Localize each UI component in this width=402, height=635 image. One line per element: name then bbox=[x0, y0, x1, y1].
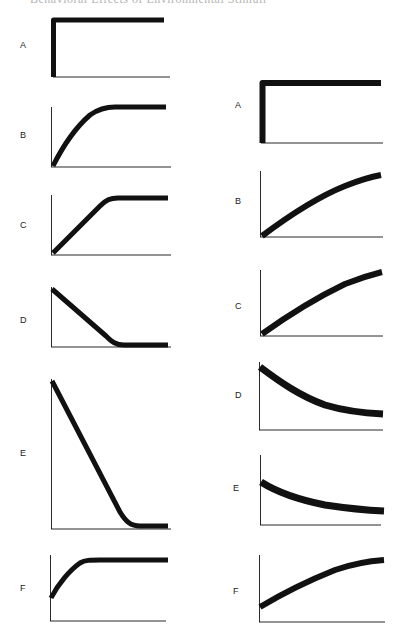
panel-label: D bbox=[20, 315, 27, 325]
panel-label: F bbox=[233, 586, 239, 596]
curve bbox=[262, 175, 381, 236]
curve bbox=[52, 381, 168, 526]
panel-label: F bbox=[20, 583, 26, 593]
curve bbox=[262, 272, 382, 334]
panel-left-e: E bbox=[20, 379, 171, 529]
figure-panels: A B C D E bbox=[0, 0, 402, 635]
curve bbox=[260, 560, 384, 607]
curve bbox=[54, 20, 165, 77]
curve bbox=[53, 198, 168, 253]
curve bbox=[260, 367, 383, 414]
panel-left-a: A bbox=[20, 20, 170, 77]
panel-label: C bbox=[235, 301, 242, 311]
panel-right-e: E bbox=[233, 455, 384, 525]
panel-left-b: B bbox=[20, 107, 171, 167]
panel-right-c: C bbox=[235, 270, 383, 336]
curve bbox=[263, 83, 382, 143]
panel-left-d: D bbox=[20, 287, 171, 347]
panel-right-a: A bbox=[235, 83, 383, 143]
curve bbox=[52, 289, 168, 345]
panel-right-f: F bbox=[233, 555, 385, 622]
panel-label: E bbox=[233, 483, 239, 493]
panel-label: E bbox=[20, 448, 26, 458]
panel-label: B bbox=[235, 196, 241, 206]
panel-label: B bbox=[20, 130, 26, 140]
panel-label: A bbox=[20, 40, 26, 50]
panel-right-b: B bbox=[235, 171, 383, 237]
panel-label: A bbox=[235, 100, 241, 110]
panel-label: D bbox=[235, 390, 242, 400]
curve bbox=[261, 482, 384, 511]
panel-left-f: F bbox=[20, 555, 168, 621]
panel-left-c: C bbox=[20, 195, 171, 255]
curve bbox=[51, 560, 168, 598]
curve bbox=[53, 107, 166, 166]
panel-right-d: D bbox=[235, 362, 383, 430]
panel-label: C bbox=[20, 220, 27, 230]
